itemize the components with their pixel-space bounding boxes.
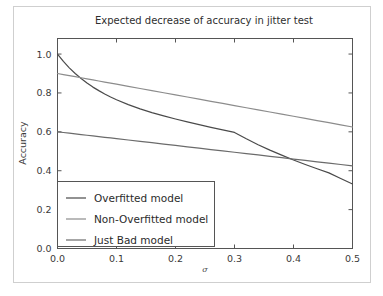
series-line-1 [58, 74, 353, 127]
legend[interactable]: Overfitted modelNon-Overfitted modelJust… [58, 182, 215, 247]
chart-plot[interactable]: Expected decrease of accuracy in jitter … [0, 0, 383, 296]
figure-canvas: Expected decrease of accuracy in jitter … [0, 0, 383, 296]
x-tick-label: 0.4 [286, 253, 301, 264]
series-lines [58, 54, 353, 184]
x-axis-tick-labels: 0.00.10.20.30.40.5 [50, 253, 360, 264]
legend-label: Non-Overfitted model [94, 213, 208, 225]
x-tick-label: 0.2 [168, 253, 183, 264]
x-tick-label: 0.3 [227, 253, 242, 264]
y-tick-label: 0.2 [36, 204, 51, 215]
y-axis-tick-labels: 0.00.20.40.60.81.0 [36, 49, 51, 254]
legend-label: Just Bad model [93, 234, 173, 246]
y-tick-label: 0.0 [36, 243, 51, 254]
series-line-2 [58, 132, 353, 166]
x-axis-title: σ [202, 265, 208, 274]
chart-title: Expected decrease of accuracy in jitter … [95, 15, 313, 26]
y-tick-label: 0.8 [36, 87, 51, 98]
y-tick-label: 0.6 [36, 126, 51, 137]
x-tick-label: 0.1 [109, 253, 124, 264]
x-tick-label: 0.0 [50, 253, 65, 264]
legend-label: Overfitted model [94, 192, 183, 204]
y-axis-title: Accuracy [17, 121, 28, 165]
x-tick-label: 0.5 [345, 253, 360, 264]
y-tick-label: 1.0 [36, 49, 51, 60]
y-tick-label: 0.4 [36, 165, 51, 176]
